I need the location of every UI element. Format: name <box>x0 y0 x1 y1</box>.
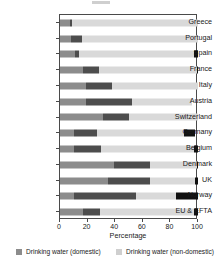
legend-label: Drinking water (non-domestic) <box>126 248 214 255</box>
x-axis-tick-label: 100 <box>184 223 210 230</box>
y-axis-label: Italy <box>160 81 217 88</box>
bar-segment <box>60 130 74 137</box>
bar-segment <box>60 98 86 105</box>
bar-segment <box>60 193 74 200</box>
bar-segment <box>60 177 108 184</box>
y-axis-tick <box>56 195 59 196</box>
stacked-bar-chart: GreecePortugalSpainFranceItalyAustriaSwi… <box>0 0 217 264</box>
bar-segment <box>74 146 102 153</box>
y-axis-label: Greece <box>160 18 217 25</box>
x-axis-title: Percentage <box>59 231 197 240</box>
y-axis-label: EU & EFTA <box>160 207 217 214</box>
legend-swatch <box>116 249 122 255</box>
y-axis-label: Spain <box>160 49 217 56</box>
y-axis-tick <box>56 211 59 212</box>
y-axis-tick <box>56 117 59 118</box>
bar-segment <box>86 98 132 105</box>
x-axis-tick-label: 60 <box>129 223 155 230</box>
bar-segment <box>103 114 129 121</box>
bar-segment <box>74 193 136 200</box>
bar-segment <box>71 35 82 42</box>
bar-segment <box>83 67 98 74</box>
y-axis-tick <box>56 22 59 23</box>
y-axis-label: UK <box>160 176 217 183</box>
y-axis-label: Denmark <box>160 160 217 167</box>
y-axis-tick <box>56 148 59 149</box>
legend-swatch <box>16 249 22 255</box>
bar-segment <box>60 51 75 58</box>
bar-segment <box>114 161 150 168</box>
x-axis-tick-label: 20 <box>74 223 100 230</box>
bar-segment <box>60 161 114 168</box>
legend-label: Drinking water (domestic) <box>26 248 101 255</box>
bar-segment <box>60 209 83 216</box>
chart-legend: Drinking water (domestic)Drinking water … <box>0 248 217 262</box>
bar-segment <box>60 35 71 42</box>
y-axis-label: Switzerland <box>160 113 217 120</box>
bar-segment <box>108 177 149 184</box>
legend-item: Drinking water (domestic) <box>16 248 101 255</box>
x-axis-tick-label: 0 <box>46 223 72 230</box>
y-axis-label: Germany <box>160 128 217 135</box>
bar-segment <box>86 82 112 89</box>
x-axis-tick-label: 40 <box>101 223 127 230</box>
y-axis-tick <box>56 180 59 181</box>
y-axis-tick <box>56 53 59 54</box>
y-axis-tick <box>56 69 59 70</box>
y-axis-label: Belgium <box>160 144 217 151</box>
bar-segment <box>83 209 100 216</box>
y-axis-tick <box>56 132 59 133</box>
top-crop-artifact <box>92 1 110 4</box>
bar-segment <box>60 82 86 89</box>
x-axis-tick <box>114 219 115 222</box>
x-axis-tick-label: 80 <box>156 223 182 230</box>
y-axis-label: Norway <box>160 191 217 198</box>
bar-segment <box>60 114 103 121</box>
x-axis-tick <box>87 219 88 222</box>
y-axis-tick <box>56 38 59 39</box>
bar-segment <box>74 130 97 137</box>
bar-segment <box>60 19 70 26</box>
y-axis-tick <box>56 85 59 86</box>
y-axis-label: France <box>160 65 217 72</box>
y-axis-tick <box>56 164 59 165</box>
y-axis-label: Austria <box>160 97 217 104</box>
x-axis-tick <box>169 219 170 222</box>
x-axis-tick <box>59 219 60 222</box>
bar-segment <box>60 146 74 153</box>
y-axis-tick <box>56 101 59 102</box>
x-axis-tick <box>142 219 143 222</box>
y-axis-label: Portugal <box>160 34 217 41</box>
legend-item: Drinking water (non-domestic) <box>116 248 214 255</box>
x-axis-tick <box>197 219 198 222</box>
bar-segment <box>60 67 83 74</box>
